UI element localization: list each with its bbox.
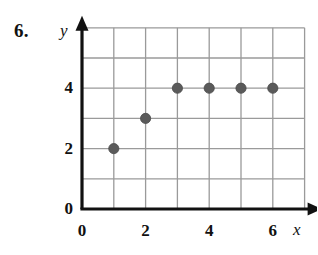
y-tick-label-0: 0 [55,200,73,217]
y-tick-label-2: 2 [55,140,73,157]
x-tick-label-6: 6 [263,222,283,239]
data-point [236,83,246,93]
data-point [141,113,151,123]
x-tick-label-0: 0 [72,222,92,239]
axis-lines [76,16,318,216]
data-point [109,144,119,154]
plot-canvas [0,0,317,255]
data-point [172,83,182,93]
grid-lines [82,28,305,209]
y-axis-arrowhead [76,16,89,31]
x-tick-label-2: 2 [136,222,156,239]
data-point [204,83,214,93]
x-tick-label-4: 4 [199,222,219,239]
y-tick-label-4: 4 [55,79,73,96]
data-point [268,83,278,93]
x-axis-arrowhead [308,203,317,216]
scatter-plot-figure: 6. y x 0246024 [0,0,317,255]
